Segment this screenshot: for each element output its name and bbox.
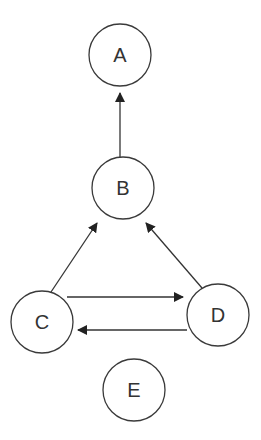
arrow-icon (146, 223, 202, 288)
node-c: C (11, 291, 73, 353)
graph-canvas: ABCDE (0, 0, 261, 440)
node-b: B (92, 157, 154, 219)
node-label: B (116, 177, 129, 199)
node-label: E (127, 379, 140, 401)
node-label: C (35, 311, 49, 333)
arrow-icon (51, 223, 97, 292)
edge-d-to-b (146, 223, 202, 288)
edge-c-to-b (51, 223, 97, 292)
node-d: D (187, 284, 249, 346)
node-e: E (103, 359, 165, 421)
node-label: A (113, 44, 127, 66)
node-label: D (211, 304, 225, 326)
node-a: A (89, 24, 151, 86)
